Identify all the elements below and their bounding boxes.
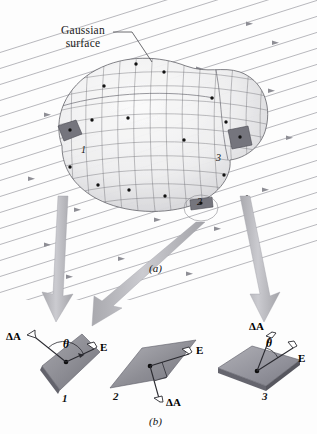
panel-2-patch bbox=[110, 340, 196, 388]
figure-container: Gaussian surface 1 2 3 (a) ΔA E θ 1 E ΔA… bbox=[0, 0, 317, 434]
panel-1-area-vector-label: ΔA bbox=[6, 330, 21, 342]
figure-graphics bbox=[0, 0, 317, 434]
caption-part-b: (b) bbox=[149, 415, 162, 427]
panel-3-angle-label: θ bbox=[266, 337, 272, 350]
panel-1-field-vector-label: E bbox=[100, 341, 107, 353]
panel-3-field-vector-label: E bbox=[298, 352, 305, 364]
caption-part-a: (a) bbox=[149, 262, 162, 274]
surface-patch-3 bbox=[228, 126, 252, 149]
gaussian-surface-label-line1: Gaussian bbox=[52, 24, 114, 37]
callout-arrow-1 bbox=[42, 196, 73, 322]
panel-2-area-vector-arrowhead bbox=[154, 396, 163, 402]
panel-3-patch bbox=[218, 346, 300, 391]
panel-2-number: 2 bbox=[113, 390, 119, 402]
panel-3-number: 3 bbox=[262, 390, 268, 402]
gaussian-surface-label: Gaussian surface bbox=[52, 24, 114, 50]
panel-2-area-vector-label: ΔA bbox=[166, 396, 181, 408]
panel-3-area-vector-label: ΔA bbox=[249, 320, 264, 332]
panel-1-area-vector-arrowhead bbox=[27, 330, 36, 338]
panel-2-field-vector-label: E bbox=[196, 344, 203, 356]
surface-patch-1-number: 1 bbox=[81, 144, 86, 155]
surface-patch-2-number: 2 bbox=[197, 196, 202, 207]
gaussian-surface-label-line2: surface bbox=[52, 37, 114, 50]
surface-patch-3-number: 3 bbox=[216, 152, 221, 163]
panel-1-angle-label: θ bbox=[63, 338, 69, 351]
panel-3-field-vector-arrowhead bbox=[288, 341, 297, 348]
callout-arrow-3 bbox=[240, 196, 280, 322]
panel-1-number: 1 bbox=[62, 392, 68, 404]
